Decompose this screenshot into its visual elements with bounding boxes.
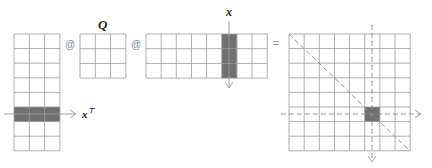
matmul-operator-2: @ [131,39,141,50]
equals-operator: = [273,38,279,49]
left-matrix [14,34,60,151]
matmul-operator-1: @ [65,39,75,50]
x-label: x [225,5,232,19]
quadratic-form-diagram: x⊤ @ Q @ x = [0,0,432,168]
q-label: Q [98,17,108,32]
middle-matrix [146,34,267,78]
xt-label: x⊤ [81,107,95,120]
q-matrix [80,34,126,78]
